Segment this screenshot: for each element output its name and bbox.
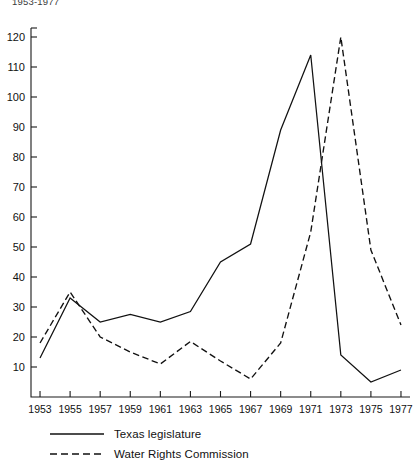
chart-axes [31,28,410,397]
legend-item-texas-legislature: Texas legislature [50,424,410,444]
x-tick-label: 1967 [239,403,263,415]
x-tick-label: 1975 [359,403,383,415]
x-axis-tick-labels: 1953195519571959196119631965196719691971… [28,403,412,415]
y-axis-tick-labels: 102030405060708090100110120 [7,31,25,373]
y-tick-label: 120 [7,31,25,43]
x-tick-label: 1965 [209,403,233,415]
y-tick-label: 70 [13,181,25,193]
legend-label-texas-legislature: Texas legislature [114,428,201,440]
y-axis-ticks [31,28,37,367]
plot-area: 102030405060708090100110120 195319551957… [0,0,416,416]
x-tick-label: 1973 [329,403,353,415]
chart-figure: 1953-1977 102030405060708090100110120 19… [0,0,416,470]
legend-label-water-rights-commission: Water Rights Commission [114,448,249,460]
x-tick-label: 1953 [28,403,52,415]
x-tick-label: 1971 [299,403,323,415]
legend-key-solid-line-icon [50,428,104,440]
y-tick-label: 90 [13,121,25,133]
y-tick-label: 80 [13,151,25,163]
x-tick-label: 1961 [149,403,173,415]
chart-legend: Texas legislature Water Rights Commissio… [50,424,410,464]
y-tick-label: 30 [13,301,25,313]
series-line-water-rights-commission [40,37,401,379]
line-chart-svg: 102030405060708090100110120 195319551957… [0,0,416,416]
y-tick-label: 20 [13,331,25,343]
y-tick-label: 100 [7,91,25,103]
series-line-texas-legislature [40,55,401,382]
x-tick-label: 1977 [389,403,413,415]
y-tick-label: 10 [13,361,25,373]
y-tick-label: 50 [13,241,25,253]
legend-item-water-rights-commission: Water Rights Commission [50,444,410,464]
legend-key-dashed-line-icon [50,448,104,460]
x-tick-label: 1969 [269,403,293,415]
x-axis-ticks [40,391,401,397]
x-tick-label: 1957 [89,403,113,415]
x-tick-label: 1959 [119,403,143,415]
y-tick-label: 60 [13,211,25,223]
y-tick-label: 110 [7,61,25,73]
y-tick-label: 40 [13,271,25,283]
x-tick-label: 1963 [179,403,203,415]
chart-series-group [40,37,401,382]
x-tick-label: 1955 [58,403,82,415]
